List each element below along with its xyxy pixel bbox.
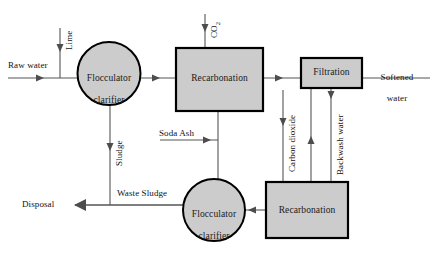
sludge-arrowhead bbox=[107, 143, 114, 151]
softened-water-label: Softened water bbox=[369, 61, 425, 114]
return-flow-arrowhead bbox=[308, 136, 315, 144]
co2-text: CO bbox=[209, 25, 219, 38]
recarb2-to-floc2-line bbox=[245, 207, 266, 214]
disposal-line bbox=[74, 199, 183, 211]
carbon-dioxide-line bbox=[280, 90, 287, 182]
softened-water-label-line1: Softened bbox=[369, 72, 425, 83]
disposal-arrowhead bbox=[74, 199, 86, 211]
recarbonation-1-shape[interactable] bbox=[176, 48, 263, 111]
soda-ash-arrowhead bbox=[203, 137, 211, 144]
carbon-dioxide-label: Carbon dioxide bbox=[287, 115, 298, 172]
floc1-to-recarb1-line bbox=[140, 75, 176, 82]
lime-label: Lime bbox=[64, 31, 75, 50]
flocculator-clarifier-1-shape[interactable] bbox=[78, 42, 141, 105]
process-flow-diagram: Flocculator clarifier Recarbonation Filt… bbox=[0, 0, 434, 255]
disposal-label: Disposal bbox=[22, 199, 54, 210]
recarbonation-2-shape[interactable] bbox=[266, 182, 348, 238]
co2-label: CO2 bbox=[209, 22, 223, 38]
sludge-line bbox=[107, 105, 114, 205]
backwash-water-line bbox=[328, 88, 335, 182]
raw-water-label: Raw water bbox=[8, 60, 48, 71]
recarb2-to-filtration-line bbox=[308, 88, 315, 182]
floc1-out-arrowhead bbox=[152, 75, 160, 82]
co2-subscript: 2 bbox=[214, 22, 221, 25]
lime-feed-line bbox=[57, 28, 64, 78]
carbon-dioxide-arrowhead bbox=[280, 118, 287, 126]
filtration-shape[interactable] bbox=[301, 58, 362, 88]
recarb1-to-filtration-line bbox=[263, 75, 301, 82]
co2-arrowhead bbox=[202, 24, 209, 32]
recarb2-out-arrowhead bbox=[248, 207, 256, 214]
waste-sludge-label: Waste Sludge bbox=[117, 188, 167, 199]
sludge-label: Sludge bbox=[114, 140, 125, 166]
lime-arrowhead bbox=[57, 44, 64, 52]
softened-water-label-line2: water bbox=[369, 93, 425, 104]
raw-water-inlet-line bbox=[8, 75, 78, 82]
flocculator-clarifier-2-shape[interactable] bbox=[183, 179, 245, 241]
co2-feed-line bbox=[202, 14, 209, 48]
backwash-water-label: Backwash water bbox=[335, 114, 346, 175]
backwash-water-arrowhead bbox=[328, 91, 335, 99]
recarb1-out-arrowhead bbox=[275, 75, 283, 82]
soda-ash-label: Soda Ash bbox=[159, 128, 194, 139]
raw-water-arrowhead bbox=[36, 75, 44, 82]
